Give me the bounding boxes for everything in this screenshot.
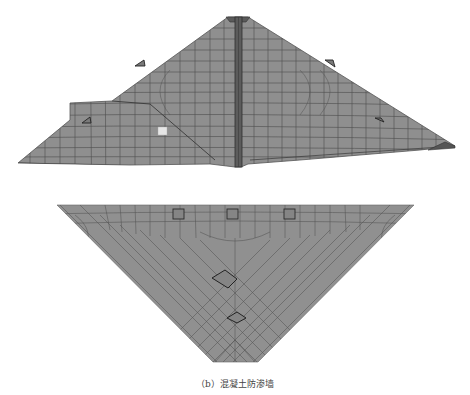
element-marker bbox=[135, 60, 145, 66]
cutoff-wall-figure bbox=[0, 196, 470, 368]
element-marker bbox=[227, 209, 238, 219]
element-marker bbox=[173, 209, 184, 219]
highlight-element bbox=[158, 127, 167, 135]
caption-b: （b）混凝土防渗墙 bbox=[0, 377, 470, 390]
element-marker bbox=[284, 209, 295, 219]
cutoff-wall-mesh bbox=[0, 196, 470, 368]
